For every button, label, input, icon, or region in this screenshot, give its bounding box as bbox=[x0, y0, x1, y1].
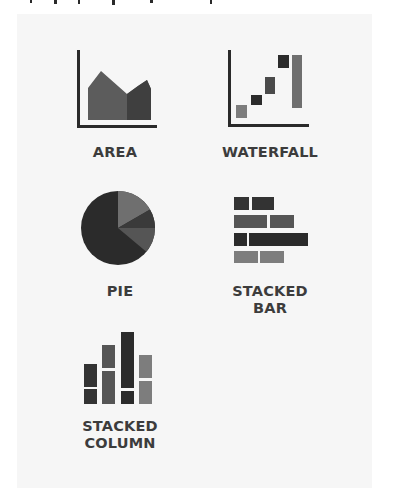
pie-chart-icon bbox=[60, 185, 180, 275]
chart-type-label: STACKED BAR bbox=[210, 283, 330, 317]
chart-type-label: STACKED COLUMN bbox=[60, 418, 180, 452]
chart-type-label: AREA bbox=[60, 144, 170, 161]
waterfall-chart-icon bbox=[200, 40, 340, 135]
stacked-bar-chart-icon bbox=[210, 190, 330, 270]
chart-type-pie[interactable]: PIE bbox=[60, 185, 180, 300]
chart-type-label: PIE bbox=[60, 283, 180, 300]
cutoff-text-line bbox=[0, 0, 400, 8]
area-chart-icon bbox=[60, 40, 170, 135]
chart-type-label: WATERFALL bbox=[200, 144, 340, 161]
chart-type-stacked-bar[interactable]: STACKED BAR bbox=[210, 190, 330, 320]
chart-type-area[interactable]: AREA bbox=[60, 40, 170, 165]
chart-type-stacked-column[interactable]: STACKED COLUMN bbox=[60, 325, 180, 460]
chart-type-waterfall[interactable]: WATERFALL bbox=[200, 40, 340, 165]
stacked-column-chart-icon bbox=[60, 325, 180, 410]
